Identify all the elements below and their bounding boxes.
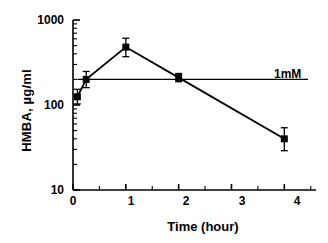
chart-figure: HMBA, µg/ml Time (hour) 1000 100 10 0 1 … (0, 0, 328, 243)
x-axis-ticks (73, 184, 311, 190)
series-polyline (77, 47, 284, 139)
data-point-marker (175, 74, 182, 81)
data-point-marker (74, 93, 81, 100)
series-line-path (77, 47, 284, 139)
data-point-marker (281, 135, 288, 142)
plot-canvas (0, 0, 328, 243)
y-axis-ticks (73, 20, 80, 190)
axis-lines (73, 20, 316, 190)
data-point-marker (83, 76, 90, 83)
data-point-marker (122, 44, 129, 51)
error-bars (74, 38, 288, 150)
data-point-markers (74, 44, 288, 143)
